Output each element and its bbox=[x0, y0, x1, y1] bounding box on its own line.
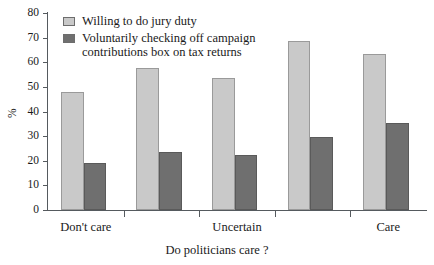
x-axis-tick bbox=[124, 211, 125, 217]
bar bbox=[288, 41, 311, 210]
y-axis-tick bbox=[43, 210, 48, 211]
bar bbox=[363, 54, 386, 210]
bar bbox=[61, 92, 84, 210]
y-axis-tick-label: 70 bbox=[28, 32, 40, 44]
y-axis-tick-label: 30 bbox=[28, 130, 40, 142]
legend-swatch-icon bbox=[63, 17, 75, 26]
x-axis-tick bbox=[350, 211, 351, 217]
y-axis-tick-label: 60 bbox=[28, 57, 40, 69]
y-axis-tick-label: 10 bbox=[28, 180, 40, 192]
x-axis-line bbox=[47, 210, 427, 211]
legend-item: Willing to do jury duty bbox=[63, 14, 313, 28]
bar-chart: 01020304050607080 % Don't careUncertainC… bbox=[0, 0, 434, 265]
y-axis-tick-label: 0 bbox=[33, 204, 39, 216]
x-axis-tick bbox=[275, 211, 276, 217]
chart-legend: Willing to do jury dutyVoluntarily check… bbox=[63, 14, 313, 62]
x-axis-title: Do politicians care ? bbox=[0, 243, 434, 258]
y-axis-tick-label: 20 bbox=[28, 155, 40, 167]
y-axis-tick-label: 50 bbox=[28, 81, 40, 93]
y-axis-tick-label: 40 bbox=[28, 106, 40, 118]
bar bbox=[310, 137, 333, 210]
legend-item: Voluntarily checking off campaign contri… bbox=[63, 31, 313, 59]
bar bbox=[84, 163, 107, 210]
bar bbox=[212, 78, 235, 210]
legend-label: Willing to do jury duty bbox=[82, 14, 197, 28]
bar bbox=[235, 155, 258, 210]
x-axis-category-label: Care bbox=[376, 220, 400, 235]
x-axis-tick bbox=[199, 211, 200, 217]
bar bbox=[136, 68, 159, 210]
legend-swatch-icon bbox=[63, 34, 75, 43]
bar bbox=[386, 123, 409, 210]
y-axis-tick-label: 80 bbox=[28, 7, 40, 19]
y-axis-ticks: 01020304050607080 bbox=[0, 0, 48, 265]
x-axis-category-label: Don't care bbox=[60, 220, 111, 235]
y-axis-title: % bbox=[6, 108, 18, 118]
legend-label: Voluntarily checking off campaign contri… bbox=[82, 31, 255, 59]
bar bbox=[159, 152, 182, 210]
x-axis-category-label: Uncertain bbox=[212, 220, 261, 235]
